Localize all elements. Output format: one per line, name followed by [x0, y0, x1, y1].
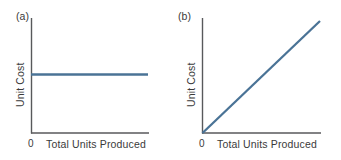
- panel-a-origin-label: 0: [28, 138, 34, 149]
- chart-panel-b: (b) Unit Cost 0 Total Units Produced: [170, 0, 341, 160]
- panel-b-unit-cost-line: [203, 21, 321, 133]
- panel-a-x-axis-title: Total Units Produced: [46, 138, 146, 150]
- chart-panel-a: (a) Unit Cost 0 Total Units Produced: [0, 0, 170, 160]
- panel-b-origin-label: 0: [199, 138, 205, 149]
- panel-a-y-axis-title: Unit Cost: [14, 62, 26, 107]
- cost-behavior-figure: (a) Unit Cost 0 Total Units Produced (b)…: [0, 0, 341, 160]
- panel-b-x-axis-title: Total Units Produced: [217, 138, 317, 150]
- panel-b-y-axis-title: Unit Cost: [185, 62, 197, 107]
